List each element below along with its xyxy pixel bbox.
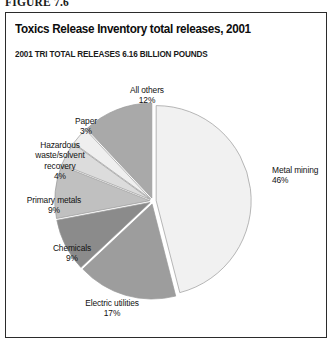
slice-label-all-others: All others 12% [114,85,180,106]
slice-label-metal-mining: Metal mining 46% [272,165,318,186]
slice-label-paper: Paper 3% [64,116,108,137]
slice-label-primary-metals: Primary metals 9% [12,195,96,216]
slice-label-electric-utilities: Electric utilities 17% [64,298,160,319]
pie-slice-metal-mining [156,106,251,293]
figure-box: Toxics Release Inventory total releases,… [5,12,327,338]
figure-number-label: FIGURE 7.6 [5,0,69,8]
slice-label-chemicals: Chemicals 9% [36,243,108,264]
slice-label-hazardous-waste: Hazardous waste/solvent recovery 4% [20,140,100,182]
